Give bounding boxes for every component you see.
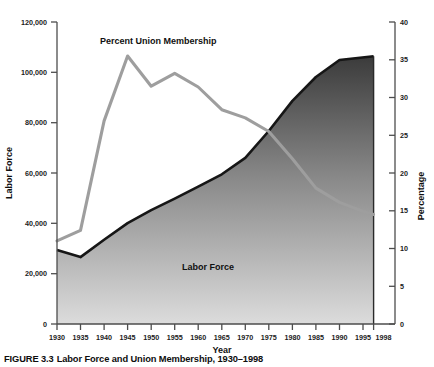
y-right-tick-15: 15	[400, 206, 408, 215]
y-left-tick-120000: 120,000	[21, 18, 47, 27]
y-axis-right-title: Percentage	[416, 172, 426, 221]
x-tick-1998: 1998	[376, 333, 392, 342]
y-right-tick-25: 25	[400, 131, 408, 140]
x-tick-1955: 1955	[167, 333, 183, 342]
x-tick-1980: 1980	[284, 333, 300, 342]
x-tick-1940: 1940	[96, 333, 112, 342]
x-axis: 1930 1935 1940 1945 1950 1955 1960 1965 …	[49, 324, 395, 355]
figure-container: 0 20,000 40,000 60,000 80,000 100,000 12…	[0, 0, 434, 367]
x-tick-1945: 1945	[120, 333, 136, 342]
y-left-tick-100000: 100,000	[21, 68, 47, 77]
y-axis-right: 0 5 10 15 20 25 30 35 40 Percentage	[389, 18, 426, 329]
x-tick-1970: 1970	[237, 333, 253, 342]
y-right-tick-0: 0	[400, 320, 404, 329]
x-tick-1995: 1995	[355, 333, 371, 342]
chart-canvas: 0 20,000 40,000 60,000 80,000 100,000 12…	[0, 0, 434, 367]
union-membership-label: Percent Union Membership	[100, 36, 217, 46]
y-axis-left: 0 20,000 40,000 60,000 80,000 100,000 12…	[4, 18, 57, 329]
x-tick-1990: 1990	[332, 333, 348, 342]
y-axis-left-title: Labor Force	[4, 147, 14, 199]
y-right-tick-30: 30	[400, 93, 408, 102]
figure-caption-number: FIGURE 3.3	[4, 354, 54, 364]
y-left-tick-20000: 20,000	[25, 269, 47, 278]
y-left-tick-60000: 60,000	[25, 169, 47, 178]
x-tick-1930: 1930	[49, 333, 65, 342]
y-left-tick-80000: 80,000	[25, 118, 47, 127]
y-left-tick-40000: 40,000	[25, 219, 47, 228]
figure-caption-text: Labor Force and Union Membership, 1930–1…	[57, 354, 264, 364]
x-tick-1960: 1960	[190, 333, 206, 342]
y-right-tick-5: 5	[400, 282, 404, 291]
y-right-tick-35: 35	[400, 55, 408, 64]
x-tick-1950: 1950	[143, 333, 159, 342]
x-tick-1975: 1975	[261, 333, 277, 342]
x-tick-1965: 1965	[214, 333, 230, 342]
x-tick-1985: 1985	[308, 333, 324, 342]
figure-caption: FIGURE 3.3Labor Force and Union Membersh…	[4, 354, 434, 364]
labor-force-label: Labor Force	[182, 262, 234, 272]
y-left-tick-0: 0	[43, 320, 47, 329]
y-right-tick-40: 40	[400, 18, 408, 27]
y-right-tick-20: 20	[400, 169, 408, 178]
y-right-tick-10: 10	[400, 244, 408, 253]
x-tick-1935: 1935	[73, 333, 89, 342]
